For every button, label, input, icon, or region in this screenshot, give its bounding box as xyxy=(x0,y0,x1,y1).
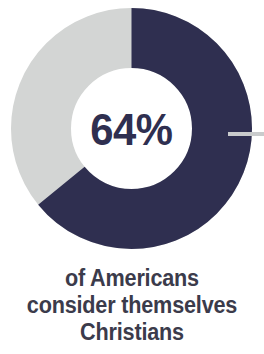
caption-line-1: of Americans xyxy=(8,265,256,292)
donut-chart xyxy=(11,8,252,249)
caption-line-3: Christians xyxy=(8,319,256,346)
donut-chart-svg xyxy=(11,8,252,249)
chart-caption: of Americans consider themselves Christi… xyxy=(0,265,264,346)
caption-line-2: consider themselves xyxy=(8,292,256,319)
infographic-root: 64% of Americans consider themselves Chr… xyxy=(0,0,264,354)
leader-line-tick xyxy=(228,132,264,136)
